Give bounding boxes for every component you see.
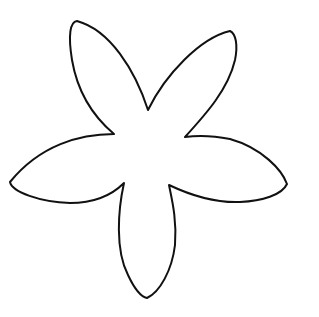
- flower-outline-drawing: [0, 0, 319, 317]
- flower-outline-path: [10, 21, 287, 298]
- flower-outline-canvas: Five-petal flower outline: [0, 0, 319, 317]
